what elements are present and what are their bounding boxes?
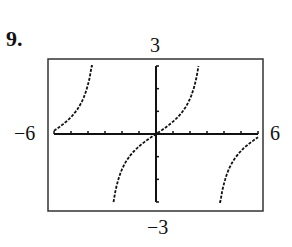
graph-plot (0, 0, 292, 247)
